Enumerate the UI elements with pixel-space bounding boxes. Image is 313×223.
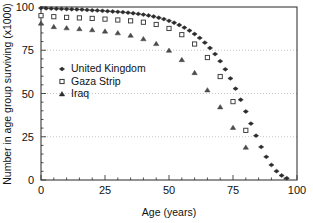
y-tick-label-75: 75	[22, 44, 34, 56]
marker-square	[116, 18, 120, 22]
data-point-1-7	[129, 19, 133, 23]
data-point-1-6	[116, 18, 120, 22]
legend-label-0: United Kingdom	[71, 62, 146, 74]
x-tick-label-100: 100	[288, 184, 306, 196]
y-axis-title: Number in age group surviving (x1000)	[1, 3, 13, 185]
marker-square	[154, 22, 158, 26]
marker-square	[39, 14, 43, 18]
y-tick-label-0: 0	[28, 174, 34, 186]
marker-square	[193, 42, 197, 46]
y-tick-label-50: 50	[22, 88, 34, 100]
marker-square	[129, 19, 133, 23]
data-point-1-13	[205, 55, 209, 59]
marker-square	[60, 79, 64, 83]
marker-square	[167, 26, 171, 30]
marker-square	[77, 16, 81, 20]
data-point-1-10	[167, 26, 171, 30]
marker-square	[52, 15, 56, 19]
marker-square	[231, 100, 235, 104]
marker-square	[244, 128, 248, 132]
marker-square	[103, 17, 107, 21]
data-point-1-15	[231, 100, 235, 104]
data-point-1-5	[103, 17, 107, 21]
x-tick-label-0: 0	[38, 184, 44, 196]
marker-square	[141, 20, 145, 24]
data-point-1-4	[90, 16, 94, 20]
y-tick-label-25: 25	[22, 131, 34, 143]
legend-item-united-kingdom[interactable]: United Kingdom	[59, 62, 146, 74]
marker-square	[65, 15, 69, 19]
x-tick-label-50: 50	[163, 184, 175, 196]
data-point-1-0	[39, 14, 43, 18]
x-axis-title: Age (years)	[142, 206, 196, 218]
data-point-1-3	[77, 16, 81, 20]
data-point-1-12	[193, 42, 197, 46]
data-point-1-1	[52, 15, 56, 19]
chart-canvas: 0255075100 0255075100 United KingdomGaza…	[0, 0, 313, 223]
y-tick-label-100: 100	[16, 1, 34, 13]
x-tick-label-25: 25	[99, 184, 111, 196]
marker-square	[205, 55, 209, 59]
legend-label-1: Gaza Strip	[71, 75, 121, 87]
survival-curve-chart: 0255075100 0255075100 United KingdomGaza…	[0, 0, 313, 223]
marker-square	[90, 16, 94, 20]
chart-background	[0, 0, 313, 223]
data-point-1-14	[218, 74, 222, 78]
data-point-1-8	[141, 20, 145, 24]
data-point-1-16	[244, 128, 248, 132]
marker-square	[218, 74, 222, 78]
data-point-1-11	[180, 33, 184, 37]
legend-label-2: Iraq	[71, 87, 89, 99]
marker-square	[180, 33, 184, 37]
legend-marker-1	[60, 79, 64, 83]
data-point-1-9	[154, 22, 158, 26]
x-tick-label-75: 75	[227, 184, 239, 196]
data-point-1-2	[65, 15, 69, 19]
